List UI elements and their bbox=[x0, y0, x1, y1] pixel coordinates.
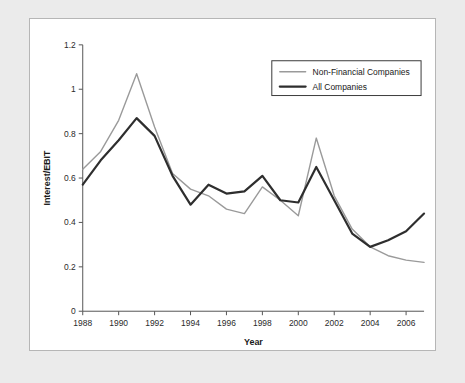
x-tick-label: 2000 bbox=[289, 318, 308, 328]
x-tick-label: 1996 bbox=[217, 318, 236, 328]
legend-entry-label: All Companies bbox=[313, 82, 367, 92]
x-tick-label: 1994 bbox=[181, 318, 200, 328]
x-tick-label: 2004 bbox=[361, 318, 380, 328]
data-series-group bbox=[83, 74, 424, 263]
series-line bbox=[83, 74, 424, 263]
y-tick-label: 0.6 bbox=[64, 173, 76, 183]
y-tick-label: 1 bbox=[71, 84, 76, 94]
x-axis-title: Year bbox=[244, 337, 263, 347]
chart-panel: 00.20.40.60.811.2 1988199019921994199619… bbox=[29, 18, 436, 351]
x-tick-label: 1992 bbox=[145, 318, 164, 328]
x-axis-ticks: 1988199019921994199619982000200220042006 bbox=[73, 311, 415, 328]
x-tick-label: 2006 bbox=[397, 318, 416, 328]
y-tick-label: 0 bbox=[71, 306, 76, 316]
line-chart: 00.20.40.60.811.2 1988199019921994199619… bbox=[30, 19, 435, 350]
y-tick-label: 0.8 bbox=[64, 129, 76, 139]
y-axis-ticks: 00.20.40.60.811.2 bbox=[64, 40, 83, 316]
chart-legend: Non-Financial CompaniesAll Companies bbox=[272, 61, 421, 96]
x-tick-label: 2002 bbox=[325, 318, 344, 328]
legend-entry-label: Non-Financial Companies bbox=[313, 67, 410, 77]
y-tick-label: 0.2 bbox=[64, 262, 76, 272]
x-tick-label: 1998 bbox=[253, 318, 272, 328]
x-tick-label: 1990 bbox=[109, 318, 128, 328]
series-line bbox=[83, 118, 424, 247]
y-tick-label: 1.2 bbox=[64, 40, 76, 50]
y-tick-label: 0.4 bbox=[64, 217, 76, 227]
y-axis-title: Interest/EBIT bbox=[42, 150, 52, 206]
x-tick-label: 1988 bbox=[73, 318, 92, 328]
